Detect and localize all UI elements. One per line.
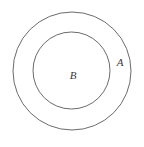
diagram-svg: A B — [0, 0, 144, 147]
set-diagram: A B — [0, 0, 144, 147]
set-label-a: A — [116, 56, 124, 68]
set-label-b: B — [70, 69, 77, 81]
